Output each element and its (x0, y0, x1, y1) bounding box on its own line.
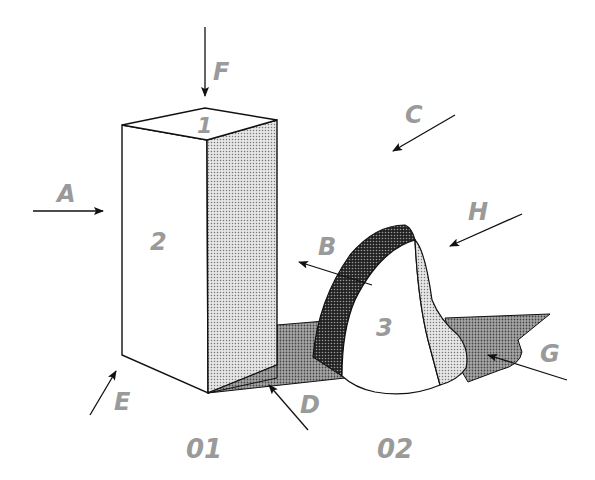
box-right-face (207, 120, 277, 393)
shape-label-2: 2 (150, 228, 167, 256)
arrow-label-f: F (213, 58, 230, 86)
arrow-c-icon (393, 115, 455, 151)
shape-label-1: 1 (197, 113, 212, 138)
arrow-label-b: B (318, 233, 336, 261)
arrow-e-icon (90, 371, 116, 415)
arrow-label-h: H (468, 198, 488, 226)
arrow-label-d: D (300, 391, 320, 419)
region-label-02: 02 (377, 434, 413, 464)
region-label-01: 01 (186, 434, 222, 464)
arrow-label-e: E (114, 388, 131, 416)
shape-label-3: 3 (376, 314, 393, 342)
arrow-label-a: A (55, 180, 76, 208)
diagram-canvas: 1 2 3 A B C D E F G H 01 02 (0, 0, 595, 480)
arrow-label-c: C (405, 101, 423, 129)
arrow-label-g: G (540, 340, 560, 368)
rectangular-prism (122, 108, 277, 393)
box-front-face (122, 125, 208, 393)
